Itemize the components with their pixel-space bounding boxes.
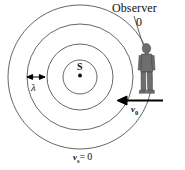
observer-label: Observer <box>112 2 157 14</box>
observer-velocity-label: v0 <box>131 105 138 116</box>
observer-symbol-label: 0 <box>136 16 142 28</box>
source-point <box>78 74 82 78</box>
observer-velocity-arrow <box>117 96 163 105</box>
wavelength-arrow <box>27 75 45 80</box>
wavelength-label: λ <box>31 82 36 93</box>
source-label: S <box>77 62 83 72</box>
source-velocity-equals: = 0 <box>80 151 93 162</box>
observer-person-icon <box>138 44 155 94</box>
doppler-effect-figure: Observer 0 S λ v0 vs= 0 <box>0 0 185 170</box>
wavefront-diagram <box>0 0 185 170</box>
observer-velocity-subscript: 0 <box>135 109 138 116</box>
source-velocity-label: vs= 0 <box>73 152 92 164</box>
